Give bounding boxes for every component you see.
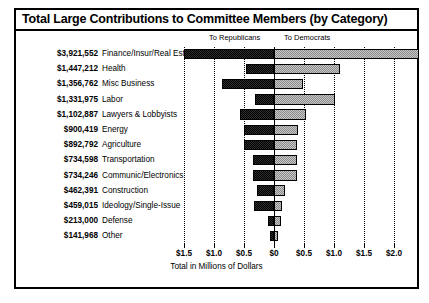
bar-to-democrats	[274, 140, 297, 151]
chart-row: $1,102,887Lawyers & Lobbyists	[16, 108, 417, 123]
bar-to-democrats	[274, 109, 306, 120]
x-axis-tick-label: $1.0	[206, 249, 222, 258]
chart-title-bar: Total Large Contributions to Committee M…	[16, 10, 417, 31]
row-total-label: $213,000	[22, 216, 98, 225]
row-total-label: $1,447,212	[22, 64, 98, 73]
x-axis-tick-label: $0.5	[296, 249, 312, 258]
row-total-label: $1,102,887	[22, 110, 98, 119]
bar-to-republicans	[222, 79, 274, 90]
chart-row: $734,598Transportation	[16, 153, 417, 168]
plot-area: $3,921,552Finance/Insur/Real Est$1,447,2…	[16, 47, 417, 252]
row-category-label: Defense	[102, 216, 133, 225]
row-total-label: $1,331,975	[22, 95, 98, 104]
chart-row: $3,921,552Finance/Insur/Real Est	[16, 47, 417, 62]
row-category-label: Agriculture	[102, 140, 141, 149]
row-total-label: $462,391	[22, 186, 98, 195]
bar-to-republicans	[244, 125, 274, 136]
chart-title: Total Large Contributions to Committee M…	[22, 12, 388, 26]
x-axis-tick	[214, 244, 215, 248]
chart-row: $892,792Agriculture	[16, 138, 417, 153]
row-category-label: Communic/Electronics	[102, 171, 183, 180]
chart-row: $900,419Energy	[16, 123, 417, 138]
chart-row: $141,968Other	[16, 229, 417, 244]
x-axis-tick-label: $0.5	[236, 249, 252, 258]
chart-legend: To Republicans To Democrats	[16, 32, 417, 45]
bar-to-republicans	[244, 140, 274, 151]
row-total-label: $3,921,552	[22, 49, 98, 58]
bar-to-democrats	[274, 170, 297, 181]
bar-to-republicans	[255, 94, 274, 105]
chart-row: $459,015Ideology/Single-Issue	[16, 199, 417, 214]
bar-to-republicans	[257, 185, 274, 196]
chart-row: $213,000Defense	[16, 214, 417, 229]
chart-row: $1,447,212Health	[16, 62, 417, 77]
chart-frame: Total Large Contributions to Committee M…	[14, 8, 419, 289]
x-axis-tick	[364, 244, 365, 248]
row-category-label: Health	[102, 64, 126, 73]
bar-to-republicans	[184, 49, 274, 60]
x-axis-tick	[274, 244, 275, 248]
row-category-label: Labor	[102, 95, 123, 104]
bar-to-republicans	[253, 170, 274, 181]
x-axis-tick	[304, 244, 305, 248]
bar-to-republicans	[254, 201, 274, 212]
row-total-label: $734,598	[22, 155, 98, 164]
row-category-label: Ideology/Single-Issue	[102, 201, 180, 210]
bar-to-democrats	[274, 125, 298, 136]
x-axis: Total in Millions of Dollars $1.5$1.0$0.…	[16, 244, 417, 289]
bar-to-democrats	[274, 79, 303, 90]
row-total-label: $1,356,762	[22, 79, 98, 88]
chart-row: $1,356,762Misc Business	[16, 77, 417, 92]
row-category-label: Other	[102, 231, 122, 240]
row-category-label: Finance/Insur/Real Est	[102, 49, 185, 58]
bar-to-republicans	[246, 64, 274, 75]
chart-row: $462,391Construction	[16, 184, 417, 199]
row-category-label: Transportation	[102, 155, 155, 164]
row-category-label: Misc Business	[102, 79, 154, 88]
x-axis-tick	[334, 244, 335, 248]
row-total-label: $734,246	[22, 171, 98, 180]
row-category-label: Energy	[102, 125, 128, 134]
bar-to-democrats	[274, 216, 281, 227]
row-total-label: $459,015	[22, 201, 98, 210]
row-total-label: $892,792	[22, 140, 98, 149]
x-axis-tick	[394, 244, 395, 248]
bar-to-republicans	[253, 155, 274, 166]
chart-row: $1,331,975Labor	[16, 93, 417, 108]
row-total-label: $900,419	[22, 125, 98, 134]
x-axis-tick	[244, 244, 245, 248]
bar-to-democrats	[274, 231, 278, 242]
legend-label-democrats: To Democrats	[284, 33, 330, 42]
x-axis-tick-label: $2.0	[386, 249, 402, 258]
row-category-label: Construction	[102, 186, 148, 195]
x-axis-tick-label: $1.0	[326, 249, 342, 258]
x-axis-tick-label: $0	[269, 249, 278, 258]
legend-label-republicans: To Republicans	[209, 33, 260, 42]
row-total-label: $141,968	[22, 231, 98, 240]
x-axis-tick-label: $1.5	[356, 249, 372, 258]
bar-to-democrats	[274, 155, 297, 166]
bar-to-democrats	[274, 201, 282, 212]
bar-to-republicans	[240, 109, 274, 120]
x-axis-tick-label: $1.5	[176, 249, 192, 258]
x-axis-title: Total in Millions of Dollars	[16, 262, 417, 271]
bar-to-democrats	[274, 185, 285, 196]
bar-to-democrats	[274, 64, 340, 75]
bar-to-democrats	[274, 94, 335, 105]
row-category-label: Lawyers & Lobbyists	[102, 110, 177, 119]
bar-to-democrats	[274, 49, 419, 60]
x-axis-tick	[184, 244, 185, 248]
chart-row: $734,246Communic/Electronics	[16, 169, 417, 184]
